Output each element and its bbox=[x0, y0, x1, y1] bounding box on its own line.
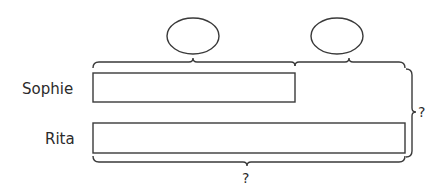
top-brace-sophie bbox=[93, 58, 295, 68]
bottom-total-question: ? bbox=[242, 170, 249, 186]
sophie-amount-oval[interactable] bbox=[167, 18, 219, 54]
difference-amount-oval[interactable] bbox=[311, 18, 363, 54]
bottom-brace bbox=[93, 156, 405, 166]
sophie-label: Sophie bbox=[22, 80, 73, 98]
right-total-question: ? bbox=[418, 104, 425, 120]
right-brace bbox=[406, 69, 416, 157]
rita-label: Rita bbox=[45, 130, 75, 148]
top-brace-difference bbox=[295, 58, 405, 68]
rita-bar bbox=[93, 123, 405, 153]
sophie-bar bbox=[93, 73, 295, 102]
